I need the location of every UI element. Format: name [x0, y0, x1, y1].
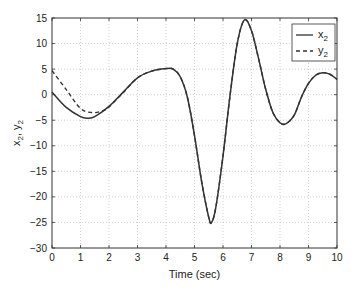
x-axis-label: Time (sec) — [169, 268, 221, 280]
x-tick-label: 3 — [135, 252, 141, 263]
legend-box — [292, 24, 335, 61]
x-tick-label: 6 — [220, 252, 226, 263]
x-tick-label: 1 — [78, 252, 84, 263]
y-tick-label: −30 — [30, 243, 47, 254]
x-tick-label: 8 — [277, 252, 283, 263]
y-tick-label: −10 — [30, 140, 47, 151]
y-tick-label: 5 — [41, 64, 47, 75]
x-tick-label: 10 — [331, 252, 343, 263]
x-tick-label: 9 — [306, 252, 312, 263]
y-tick-label: 15 — [36, 13, 48, 24]
y-tick-label: −15 — [30, 166, 47, 177]
x-tick-label: 4 — [163, 252, 169, 263]
legend: x2 y2 — [292, 24, 335, 61]
x-tick-label: 5 — [192, 252, 198, 263]
x-tick-label: 0 — [49, 252, 55, 263]
y-tick-label: 0 — [41, 89, 47, 100]
y-label-y-sub: 2 — [16, 119, 25, 124]
y-tick-label: 10 — [36, 38, 48, 49]
y-tick-label: −5 — [36, 115, 48, 126]
x-tick-labels: 012345678910 — [49, 252, 343, 263]
y-tick-labels: 151050−5−10−15−20−25−30 — [30, 13, 47, 254]
line-chart: 012345678910 151050−5−10−15−20−25−30 Tim… — [0, 0, 358, 291]
x-tick-label: 7 — [249, 252, 255, 263]
y-axis-label: x2, y2 — [10, 119, 25, 146]
y-tick-label: −25 — [30, 217, 47, 228]
y-tick-label: −20 — [30, 191, 47, 202]
x-tick-label: 2 — [106, 252, 112, 263]
